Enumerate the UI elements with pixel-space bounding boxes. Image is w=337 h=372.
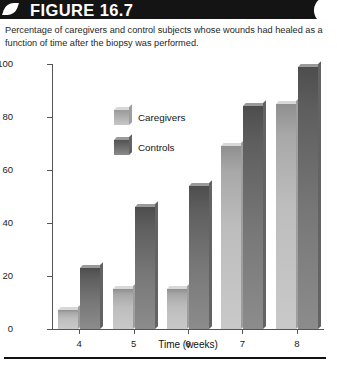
x-tick-mark (188, 330, 189, 334)
bar-chart: 020406080100 45678 Caregivers Controls P… (0, 52, 337, 348)
bar-controls-week-6 (189, 186, 209, 329)
y-tick-label: 0 (0, 323, 13, 334)
y-tick-mark (47, 223, 52, 224)
x-tick-mark (242, 330, 243, 334)
y-tick-label: 80 (0, 111, 13, 122)
x-tick-mark (79, 330, 80, 334)
y-axis-line (52, 64, 53, 330)
legend-item-controls: Controls (114, 136, 185, 158)
x-tick-mark (297, 330, 298, 334)
bar-caregivers-week-7 (221, 146, 241, 329)
x-axis-title: Time (weeks) (52, 339, 324, 350)
y-tick-label: 100 (0, 58, 13, 69)
y-tick-label: 40 (0, 217, 13, 228)
bar-controls-week-8 (298, 67, 318, 329)
figure-number-label: FIGURE 16.7 (30, 1, 133, 19)
legend-item-caregivers: Caregivers (114, 106, 185, 128)
legend-swatch-controls-icon (114, 140, 129, 155)
legend-swatch-caregivers-icon (114, 110, 129, 125)
legend-label-caregivers: Caregivers (138, 112, 185, 123)
y-tick-mark (47, 170, 52, 171)
bar-controls-week-4 (80, 268, 100, 329)
bar-caregivers-week-4 (58, 310, 78, 329)
figure-caption: Percentage of caregivers and control sub… (5, 24, 331, 49)
y-tick-mark (47, 329, 52, 330)
y-tick-label: 20 (0, 270, 13, 281)
chart-legend: Caregivers Controls (114, 106, 185, 166)
bar-caregivers-week-8 (276, 104, 296, 329)
bar-controls-week-5 (135, 207, 155, 329)
y-tick-mark (47, 117, 52, 118)
y-tick-mark (47, 64, 52, 65)
legend-label-controls: Controls (138, 142, 174, 153)
bar-controls-week-7 (243, 106, 263, 329)
y-tick-label: 60 (0, 164, 13, 175)
bar-caregivers-week-6 (167, 289, 187, 329)
banner-notch-decoration (2, 3, 19, 15)
bar-caregivers-week-5 (113, 289, 133, 329)
x-tick-mark (134, 330, 135, 334)
plot-area: 020406080100 45678 Caregivers Controls (52, 64, 324, 330)
y-tick-mark (47, 276, 52, 277)
footer-divider (4, 357, 326, 359)
